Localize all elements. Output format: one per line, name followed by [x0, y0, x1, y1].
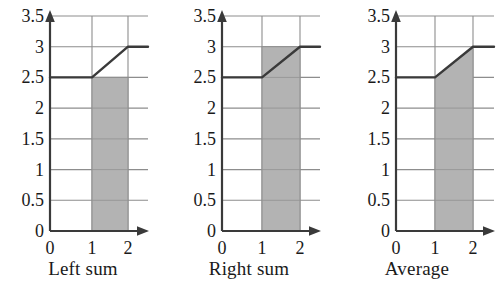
function-curve — [50, 47, 148, 78]
y-tick-label: 1.5 — [194, 129, 217, 149]
y-tick-label: 2.5 — [194, 67, 217, 87]
x-axis-arrowhead-icon — [137, 226, 149, 236]
y-tick-label: 2 — [35, 98, 44, 118]
y-tick-label: 2.5 — [22, 67, 45, 87]
y-tick-label: 1 — [35, 160, 44, 180]
x-tick-label: 1 — [258, 238, 267, 258]
right-sum-plot: 3.5 3 2.5 2 1.5 1 0.5 0 0 1 2 — [166, 0, 332, 258]
left-sum-rectangle — [92, 77, 128, 231]
x-axis-arrowhead-icon — [309, 226, 321, 236]
panel-caption-right-sum: Right sum — [166, 258, 332, 280]
chart-panel-average: 3.5 3 2.5 2 1.5 1 0.5 0 0 1 2 Average — [334, 0, 500, 296]
x-tick-label: 2 — [469, 238, 478, 258]
y-tick-label: 1.5 — [22, 129, 45, 149]
y-tick-label: 0 — [35, 221, 44, 241]
y-tick-label: 1 — [381, 160, 390, 180]
chart-panel-right-sum: 3.5 3 2.5 2 1.5 1 0.5 0 0 1 2 Right sum — [166, 0, 332, 296]
chart-panel-left-sum: 3.5 3 2.5 2 1.5 1 0.5 0 0 1 2 Left sum — [0, 0, 166, 296]
x-tick-label: 2 — [124, 238, 133, 258]
y-tick-label: 3 — [381, 37, 390, 57]
y-tick-label: 3.5 — [194, 6, 217, 26]
x-tick-label: 0 — [46, 238, 55, 258]
x-tick-label: 1 — [431, 238, 440, 258]
riemann-sum-figure: 3.5 3 2.5 2 1.5 1 0.5 0 0 1 2 Left sum — [0, 0, 500, 296]
panel-caption-average: Average — [334, 258, 500, 280]
y-tick-label: 3.5 — [368, 6, 391, 26]
y-tick-label: 3 — [207, 37, 216, 57]
y-tick-label: 0.5 — [194, 190, 217, 210]
x-tick-label: 0 — [392, 238, 401, 258]
y-tick-label: 0 — [381, 221, 390, 241]
average-plot: 3.5 3 2.5 2 1.5 1 0.5 0 0 1 2 — [334, 0, 500, 258]
x-axis-arrowhead-icon — [483, 226, 495, 236]
y-tick-label: 0 — [207, 221, 216, 241]
y-tick-label: 3 — [35, 37, 44, 57]
x-tick-label: 1 — [88, 238, 97, 258]
y-tick-label: 2 — [381, 98, 390, 118]
y-tick-label: 1 — [207, 160, 216, 180]
y-tick-label: 3.5 — [22, 6, 45, 26]
y-tick-label: 2.5 — [368, 67, 391, 87]
x-tick-label: 0 — [218, 238, 227, 258]
y-tick-label: 0.5 — [22, 190, 45, 210]
y-tick-label: 1.5 — [368, 129, 391, 149]
y-tick-label: 0.5 — [368, 190, 391, 210]
panel-caption-left-sum: Left sum — [0, 258, 166, 280]
left-sum-plot: 3.5 3 2.5 2 1.5 1 0.5 0 0 1 2 — [0, 0, 166, 258]
y-tick-label: 2 — [207, 98, 216, 118]
x-tick-label: 2 — [296, 238, 305, 258]
